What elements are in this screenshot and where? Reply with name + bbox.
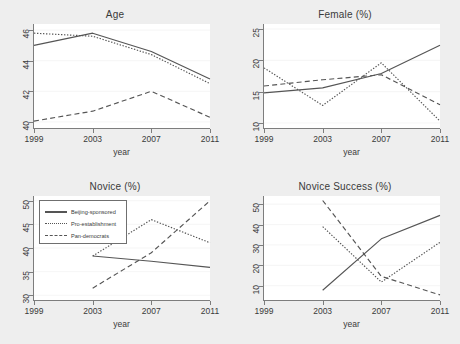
x-tick xyxy=(440,129,441,133)
x-axis-line xyxy=(33,128,210,129)
x-tick-label: 2003 xyxy=(303,134,343,144)
x-tick xyxy=(264,129,265,133)
y-tick-label: 15 xyxy=(251,91,261,117)
x-tick-label: 2011 xyxy=(420,134,460,144)
x-tick xyxy=(93,301,94,305)
x-axis-title: year xyxy=(263,319,440,329)
x-tick-label: 2007 xyxy=(361,134,401,144)
x-tick xyxy=(151,129,152,133)
x-tick xyxy=(93,129,94,133)
y-tick-label: 40 xyxy=(21,247,31,273)
chart-panel-2: Female (%)101520251999200320072011year xyxy=(230,0,460,172)
x-tick-label: 1999 xyxy=(244,306,284,316)
panel-title: Novice Success (%) xyxy=(230,181,460,192)
chart-panel-1: Age404244461999200320072011year xyxy=(0,0,230,172)
x-tick-label: 2003 xyxy=(73,134,113,144)
x-tick xyxy=(323,129,324,133)
x-tick xyxy=(34,301,35,305)
series-layer xyxy=(264,196,440,300)
x-tick-label: 2007 xyxy=(361,306,401,316)
series-line-dashed xyxy=(264,75,440,105)
series-line-solid xyxy=(323,215,440,290)
y-tick-label: 25 xyxy=(251,28,261,54)
legend-item: Pan-democrats xyxy=(45,230,125,242)
x-axis-title: year xyxy=(33,319,210,329)
y-tick-label: 44 xyxy=(21,60,31,86)
x-tick-label: 1999 xyxy=(14,306,54,316)
panel-title: Novice (%) xyxy=(0,181,230,192)
y-axis-line xyxy=(33,24,34,129)
panel-title: Female (%) xyxy=(230,9,460,20)
series-line-solid xyxy=(264,45,440,93)
legend-swatch-dotted xyxy=(45,223,67,224)
x-tick xyxy=(210,301,211,305)
x-tick-label: 2003 xyxy=(73,306,113,316)
legend-item: Pro-establishment xyxy=(45,218,125,230)
x-tick-label: 2007 xyxy=(131,134,171,144)
x-tick xyxy=(210,129,211,133)
y-axis-line xyxy=(33,196,34,301)
x-tick-label: 2011 xyxy=(420,306,460,316)
x-tick xyxy=(151,301,152,305)
legend-label: Pan-democrats xyxy=(71,230,109,242)
panel-title: Age xyxy=(0,9,230,20)
legend-swatch-dashed xyxy=(45,235,67,236)
y-tick-label: 46 xyxy=(21,29,31,55)
x-tick-label: 2003 xyxy=(303,306,343,316)
x-tick xyxy=(323,301,324,305)
y-tick-label: 45 xyxy=(21,223,31,249)
y-tick-label: 42 xyxy=(21,90,31,116)
x-tick-label: 1999 xyxy=(14,134,54,144)
series-line-solid xyxy=(93,256,210,267)
legend-label: Beijing-sponsored xyxy=(71,206,116,218)
x-tick-label: 2007 xyxy=(131,306,171,316)
y-tick-label: 50 xyxy=(251,203,261,229)
figure-canvas: Age404244461999200320072011yearFemale (%… xyxy=(0,0,460,344)
x-tick-label: 2011 xyxy=(190,134,230,144)
x-tick xyxy=(264,301,265,305)
x-axis-line xyxy=(33,300,210,301)
series-line-dashed xyxy=(34,91,210,121)
x-tick xyxy=(440,301,441,305)
x-tick-label: 2011 xyxy=(190,306,230,316)
series-line-dotted xyxy=(323,227,440,282)
y-tick-label: 20 xyxy=(251,59,261,85)
x-axis-title: year xyxy=(33,147,210,157)
y-axis-line xyxy=(263,24,264,129)
series-layer xyxy=(34,24,210,128)
y-tick-label: 50 xyxy=(21,200,31,226)
x-tick xyxy=(34,129,35,133)
x-tick-label: 1999 xyxy=(244,134,284,144)
x-axis-line xyxy=(263,300,440,301)
series-line-solid xyxy=(34,33,210,79)
series-line-dashed xyxy=(323,200,440,294)
y-tick-label: 35 xyxy=(21,271,31,297)
chart-legend: Beijing-sponsoredPro-establishmentPan-de… xyxy=(39,200,127,244)
legend-swatch-solid xyxy=(45,211,67,213)
x-tick xyxy=(381,129,382,133)
series-line-dotted xyxy=(34,33,210,83)
x-axis-title: year xyxy=(263,147,440,157)
y-axis-line xyxy=(263,196,264,301)
x-axis-line xyxy=(263,128,440,129)
chart-panel-3: Novice (%)30354045501999200320072011year… xyxy=(0,172,230,344)
chart-panel-4: Novice Success (%)1020304050199920032007… xyxy=(230,172,460,344)
series-layer xyxy=(264,24,440,128)
legend-label: Pro-establishment xyxy=(71,218,116,230)
x-tick xyxy=(381,301,382,305)
legend-item: Beijing-sponsored xyxy=(45,206,125,218)
